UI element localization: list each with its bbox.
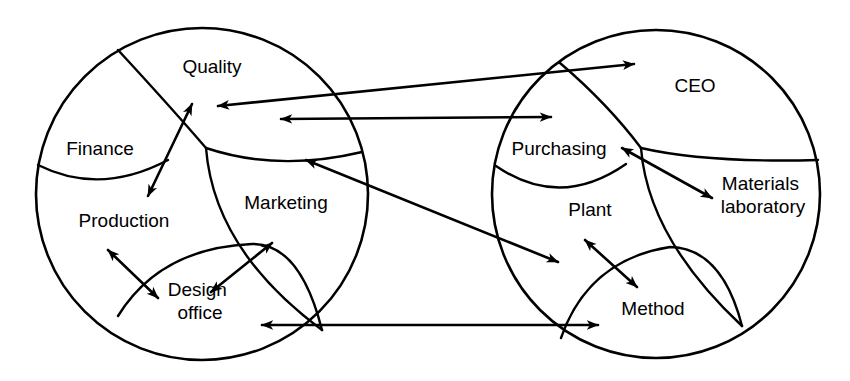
arrow-quality-production (148, 104, 192, 196)
arrow-plant-method (585, 240, 637, 287)
divider-marketing-design (206, 148, 322, 330)
arrow-production-design-office (108, 250, 158, 298)
divider-purchasing-plant (496, 164, 626, 188)
segment-label-finance: Finance (66, 138, 134, 159)
divider-quality-marketing (206, 148, 362, 161)
diagram-canvas: Quality Finance Production Marketing Des… (0, 0, 850, 381)
arrow-quality-plant (306, 160, 558, 262)
segment-label-materials-laboratory: Materials laboratory (721, 173, 806, 217)
segment-label-design-office: Design office (168, 279, 232, 323)
segment-label-marketing: Marketing (244, 192, 327, 213)
segment-label-purchasing: Purchasing (511, 138, 606, 159)
arrow-purchasing-materials-laboratory (622, 148, 712, 198)
divider-ceo-materials (641, 148, 818, 161)
segment-label-quality: Quality (182, 56, 242, 77)
divider-ceo-purchasing (560, 63, 641, 148)
arrow-quality-ceo (218, 64, 634, 106)
segment-label-production: Production (79, 210, 170, 231)
divider-finance-production (38, 160, 168, 179)
segment-label-method: Method (621, 298, 684, 319)
organisation-relationship-diagram: Quality Finance Production Marketing Des… (0, 0, 850, 381)
segment-label-plant: Plant (568, 199, 612, 220)
segment-label-ceo: CEO (674, 75, 715, 96)
